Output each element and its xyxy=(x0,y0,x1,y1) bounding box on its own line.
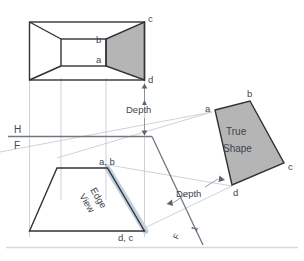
label-aux-c: c xyxy=(288,161,293,172)
label-front-ab: a, b xyxy=(99,156,115,167)
aux-projector-upper xyxy=(57,112,212,158)
label-top-c: c xyxy=(148,13,153,24)
depth-aux-arrowhead-right xyxy=(219,176,226,183)
label-aux-b: b xyxy=(247,88,252,99)
depth-aux-arrowhead-left xyxy=(167,200,174,207)
top-view xyxy=(30,22,145,80)
label-depth-top: Depth xyxy=(126,104,151,115)
top-view-diagonal-tl xyxy=(30,22,62,39)
label-top-a: a xyxy=(96,54,102,65)
label-aux-a: a xyxy=(205,103,211,114)
label-f: F xyxy=(14,140,20,151)
depth-top-arrowhead-up xyxy=(142,84,148,89)
label-fold-f: F xyxy=(171,232,182,241)
label-true-shape-line1: True xyxy=(226,126,247,137)
label-top-b: b xyxy=(96,34,101,45)
label-front-dc: d, c xyxy=(118,232,134,243)
label-depth-aux: Depth xyxy=(176,188,201,199)
top-view-diagonal-bl xyxy=(30,66,62,80)
label-aux-d: d xyxy=(233,187,238,198)
drawing-canvas: c b a d Depth H F a, b d, c Edge View De… xyxy=(0,0,304,261)
technical-drawing-figure: c b a d Depth H F a, b d, c Edge View De… xyxy=(0,0,304,261)
label-top-d: d xyxy=(148,74,153,85)
top-view-shaded-face xyxy=(106,22,145,80)
label-h: H xyxy=(14,124,21,135)
label-true-shape-line2: Shape xyxy=(223,143,252,154)
